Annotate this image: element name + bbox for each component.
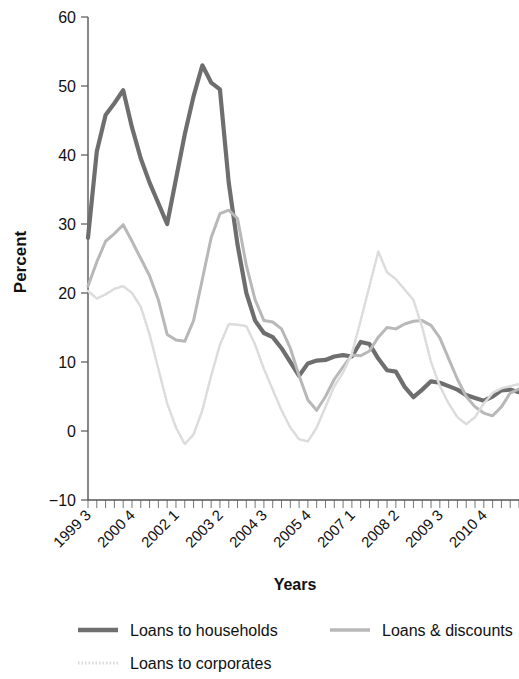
series-line-1 bbox=[88, 210, 519, 416]
y-tick-label: −10 bbox=[49, 492, 76, 509]
y-axis-ticks bbox=[81, 17, 88, 500]
x-axis-tick-labels: 1999 32000 42002 12003 22004 32005 42007… bbox=[50, 506, 490, 550]
y-tick-label: 60 bbox=[58, 9, 76, 26]
x-tick-label: 2010 4 bbox=[445, 506, 489, 550]
legend-item[interactable]: Loans to households bbox=[78, 622, 278, 639]
x-tick-label: 2005 4 bbox=[270, 506, 314, 550]
data-series-group bbox=[88, 65, 519, 444]
y-axis-tick-labels: −100102030405060 bbox=[49, 9, 76, 509]
y-tick-label: 20 bbox=[58, 285, 76, 302]
chart-container: −100102030405060 1999 32000 42002 12003 … bbox=[0, 0, 519, 679]
x-tick-label: 2007 1 bbox=[314, 506, 358, 550]
y-axis-title: Percent bbox=[11, 230, 30, 293]
x-tick-label: 2008 2 bbox=[358, 506, 402, 550]
x-tick-label: 1999 3 bbox=[50, 506, 94, 550]
x-axis-ticks bbox=[88, 500, 519, 508]
legend-item[interactable]: Loans to corporates bbox=[78, 655, 271, 672]
y-tick-label: 50 bbox=[58, 78, 76, 95]
legend-label: Loans to corporates bbox=[130, 655, 271, 672]
x-tick-label: 2009 3 bbox=[401, 506, 445, 550]
y-tick-label: 10 bbox=[58, 354, 76, 371]
x-tick-label: 2002 1 bbox=[138, 506, 182, 550]
x-tick-label: 2004 3 bbox=[226, 506, 270, 550]
y-tick-label: 0 bbox=[67, 423, 76, 440]
x-tick-label: 2003 2 bbox=[182, 506, 226, 550]
y-tick-label: 30 bbox=[58, 216, 76, 233]
legend-label: Loans & discounts bbox=[382, 622, 513, 639]
y-tick-label: 40 bbox=[58, 147, 76, 164]
axis-lines bbox=[88, 17, 519, 500]
x-axis-title: Years bbox=[274, 576, 317, 593]
x-tick-label: 2000 4 bbox=[94, 506, 138, 550]
legend-item[interactable]: Loans & discounts bbox=[330, 622, 513, 639]
line-chart: −100102030405060 1999 32000 42002 12003 … bbox=[0, 0, 519, 679]
legend-label: Loans to households bbox=[130, 622, 278, 639]
chart-legend: Loans to householdsLoans & discountsLoan… bbox=[78, 622, 513, 672]
